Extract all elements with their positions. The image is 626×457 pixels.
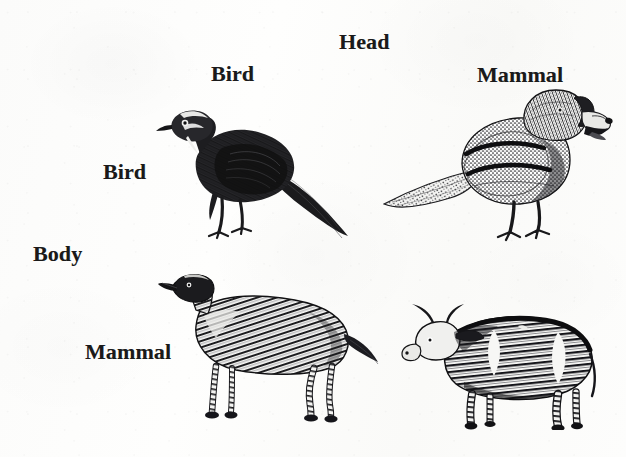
- cell-mammal-head-bird-body: [378, 82, 614, 250]
- chimera-matrix-figure: Head Bird Mammal Bird Body Mammal: [0, 0, 626, 457]
- cell-mammal-head-mammal-body: [398, 298, 606, 430]
- row-header-bird: Bird: [103, 161, 146, 183]
- column-header-bird: Bird: [211, 63, 254, 85]
- dog-head-pigeon-body-engraving: [378, 82, 614, 250]
- bird-head-dog-body-engraving: [158, 272, 384, 424]
- cell-bird-head-bird-body: [150, 96, 362, 246]
- cow-engraving: [398, 298, 606, 430]
- column-axis-label-head: Head: [339, 31, 390, 53]
- turkey-engraving: [150, 96, 362, 246]
- row-axis-label-body: Body: [33, 243, 82, 265]
- cell-bird-head-mammal-body: [158, 272, 384, 424]
